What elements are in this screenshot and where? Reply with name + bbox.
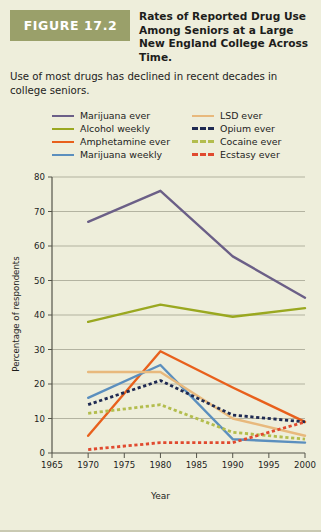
legend-label: Marijuana weekly (80, 149, 162, 160)
y-tick-label: 40 (34, 310, 45, 320)
legend-swatch-icon (192, 115, 214, 117)
legend-item: Ecstasy ever (192, 149, 315, 160)
legend-item: Cocaine ever (192, 136, 315, 147)
series-line (88, 405, 305, 440)
chart-plot-area: Percentage of respondents 01020304050607… (0, 169, 321, 499)
legend-swatch-icon (52, 154, 74, 156)
legend-label: Alcohol weekly (80, 123, 150, 134)
figure-container: FIGURE 17.2 Rates of Reported Drug Use A… (0, 0, 321, 532)
x-tick-label: 1985 (186, 460, 208, 470)
series-line (88, 191, 305, 298)
legend-item: Alcohol weekly (52, 123, 184, 134)
y-tick-label: 50 (34, 276, 45, 286)
series-line (88, 372, 305, 436)
y-tick-label: 70 (34, 207, 45, 217)
y-axis-label: Percentage of respondents (11, 254, 21, 374)
legend-label: Opium ever (220, 123, 275, 134)
x-tick-label: 2000 (294, 460, 316, 470)
series-line (88, 422, 305, 450)
legend-item: Opium ever (192, 123, 315, 134)
chart-legend: Marijuana everLSD everAlcohol weeklyOpiu… (0, 97, 321, 160)
y-tick-label: 30 (34, 345, 45, 355)
line-chart-svg: 0102030405060708019651970197519801985199… (0, 169, 321, 487)
x-tick-label: 1980 (149, 460, 171, 470)
figure-caption: Use of most drugs has declined in recent… (0, 64, 321, 97)
legend-swatch-icon (192, 153, 214, 156)
legend-label: Marijuana ever (80, 110, 150, 121)
legend-item: Marijuana weekly (52, 149, 184, 160)
legend-swatch-icon (52, 128, 74, 130)
x-tick-label: 1990 (222, 460, 244, 470)
x-tick-label: 1995 (258, 460, 280, 470)
x-tick-label: 1970 (77, 460, 99, 470)
legend-label: LSD ever (220, 110, 262, 121)
x-tick-label: 1975 (113, 460, 135, 470)
figure-number-badge: FIGURE 17.2 (10, 10, 130, 41)
legend-label: Cocaine ever (220, 136, 281, 147)
legend-item: LSD ever (192, 110, 315, 121)
legend-swatch-icon (192, 140, 214, 143)
x-tick-label: 1965 (41, 460, 63, 470)
y-tick-label: 60 (34, 241, 45, 251)
x-axis-label: Year (0, 491, 321, 501)
y-tick-label: 80 (34, 172, 45, 182)
legend-item: Marijuana ever (52, 110, 184, 121)
legend-item: Amphetamine ever (52, 136, 184, 147)
legend-label: Ecstasy ever (220, 149, 280, 160)
y-tick-label: 0 (40, 448, 45, 458)
legend-swatch-icon (52, 141, 74, 143)
figure-header: FIGURE 17.2 Rates of Reported Drug Use A… (0, 0, 321, 64)
y-tick-label: 20 (34, 379, 45, 389)
y-tick-label: 10 (34, 414, 45, 424)
series-line (88, 351, 305, 436)
series-line (88, 305, 305, 322)
figure-title: Rates of Reported Drug Use Among Seniors… (139, 9, 313, 64)
legend-swatch-icon (52, 115, 74, 117)
legend-label: Amphetamine ever (80, 136, 170, 147)
legend-swatch-icon (192, 127, 214, 130)
